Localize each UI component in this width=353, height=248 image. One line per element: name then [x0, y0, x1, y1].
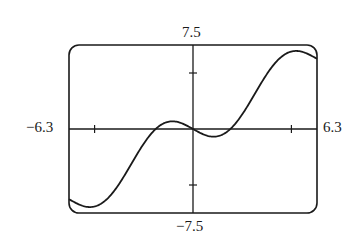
ymax-label: 7.5 [182, 24, 201, 41]
xmax-label: 6.3 [323, 119, 342, 136]
ymin-label: −7.5 [176, 218, 203, 235]
xmin-label: −6.3 [26, 119, 53, 136]
